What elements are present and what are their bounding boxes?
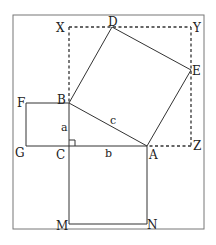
square-on-hypotenuse-c bbox=[69, 27, 191, 146]
label-C: C bbox=[56, 148, 65, 162]
side-label-c: c bbox=[110, 114, 116, 127]
side-label-b: b bbox=[105, 147, 112, 160]
outer-frame bbox=[13, 15, 204, 229]
label-Z: Z bbox=[193, 139, 201, 153]
label-N: N bbox=[147, 218, 158, 232]
label-M: M bbox=[56, 219, 68, 233]
label-D: D bbox=[108, 15, 118, 29]
label-G: G bbox=[15, 146, 25, 160]
label-Y: Y bbox=[192, 21, 202, 35]
label-F: F bbox=[17, 96, 25, 110]
label-E: E bbox=[192, 64, 201, 78]
label-B: B bbox=[57, 93, 66, 107]
side-label-a: a bbox=[61, 121, 68, 134]
label-X: X bbox=[56, 21, 65, 35]
label-A: A bbox=[148, 148, 158, 162]
pythagoras-diagram: X D Y E Z F B G C A M N a b c bbox=[0, 0, 216, 245]
right-angle-marker bbox=[69, 140, 75, 146]
